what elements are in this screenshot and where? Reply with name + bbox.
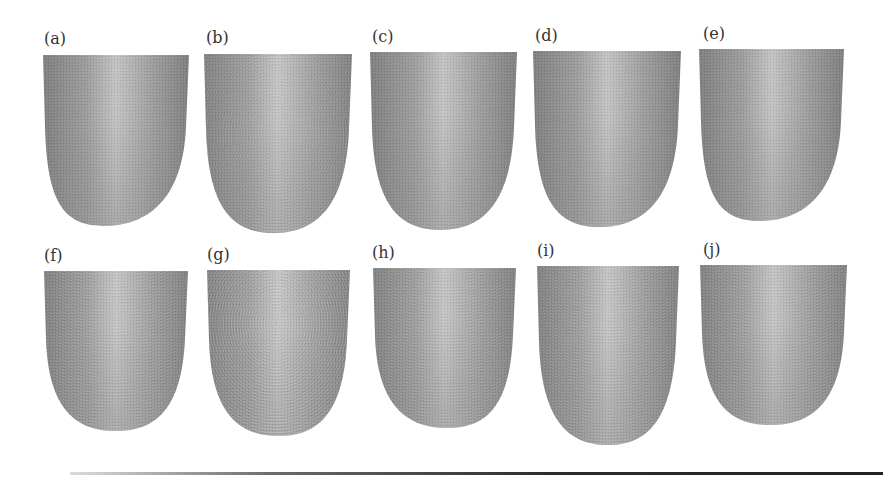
panel-label: (b) <box>206 30 229 46</box>
fingertip-image <box>373 268 516 428</box>
bottom-rule <box>70 472 883 475</box>
panel-label: (h) <box>372 245 395 261</box>
panel-label: (e) <box>703 26 725 42</box>
fingertip-image <box>207 270 350 436</box>
fingertip-image <box>44 271 188 431</box>
panel-label: (c) <box>372 29 393 45</box>
panel-label: (i) <box>537 243 555 259</box>
panel-label: (g) <box>207 247 230 263</box>
panel-label: (d) <box>535 28 558 44</box>
panel-label: (a) <box>44 31 66 47</box>
panel-label: (f) <box>44 248 62 264</box>
fingertip-image <box>43 55 189 226</box>
fingertip-image <box>700 265 847 425</box>
panel-label: (j) <box>703 242 720 258</box>
fingertip-image <box>370 52 517 230</box>
figure: (a) <box>0 0 883 477</box>
fingertip-image <box>533 51 681 227</box>
fingertip-image <box>204 54 352 233</box>
fingertip-image <box>537 266 679 445</box>
fingertip-image <box>699 49 844 221</box>
